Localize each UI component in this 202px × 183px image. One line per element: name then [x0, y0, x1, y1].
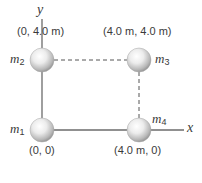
coord-label-m4: (4.0 m, 0): [114, 145, 161, 156]
mass-label-m3: m3: [155, 52, 169, 67]
coord-label-m2: (0, 4.0 m): [17, 26, 64, 37]
x-axis-label: x: [187, 121, 193, 135]
coord-label-m1: (0, 0): [29, 145, 55, 156]
sphere-m3: [127, 48, 151, 72]
y-axis-label: y: [37, 3, 43, 17]
coord-label-m3: (4.0 m, 4.0 m): [103, 26, 171, 37]
mass-label-m4: m4: [152, 112, 166, 127]
sphere-m2: [30, 48, 54, 72]
sphere-m4: [127, 118, 151, 142]
mass-label-m1: m1: [10, 122, 24, 137]
mass-label-m2: m2: [10, 52, 24, 67]
sphere-m1: [30, 118, 54, 142]
